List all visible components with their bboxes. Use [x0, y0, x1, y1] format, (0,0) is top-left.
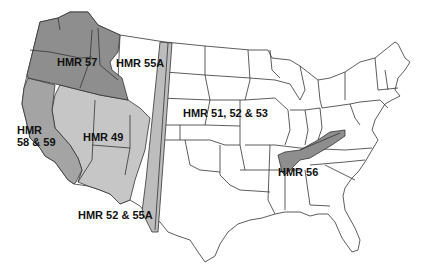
label-hmr-49: HMR 49: [83, 131, 123, 143]
label-hmr-56: HMR 56: [278, 166, 318, 178]
label-hmr-58-59-line2: 58 & 59: [17, 136, 56, 148]
label-hmr-55a: HMR 55A: [116, 57, 164, 69]
label-hmr-51-52-53: HMR 51, 52 & 53: [183, 107, 268, 119]
us-hmr-map: [0, 0, 434, 279]
label-hmr-57: HMR 57: [57, 56, 97, 68]
label-hmr-52-55a: HMR 52 & 55A: [78, 209, 153, 221]
label-hmr-58-59-line1: HMR: [17, 124, 42, 136]
